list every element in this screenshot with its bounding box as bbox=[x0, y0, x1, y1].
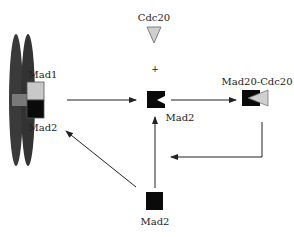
label-complex: Mad20-Cdc20 bbox=[221, 77, 292, 87]
arrow-free-mad2-to-kinetochore bbox=[66, 131, 136, 187]
label-mad1: Mad1 bbox=[29, 70, 58, 80]
arrow-complex-return bbox=[171, 122, 262, 157]
mad2-open-shape bbox=[147, 91, 165, 108]
mad2-free-square bbox=[146, 192, 163, 210]
cycle-diagram bbox=[0, 0, 294, 237]
mad2-box-chromosome bbox=[27, 100, 44, 118]
label-plus: + bbox=[151, 65, 159, 74]
mad2-cdc20-complex bbox=[242, 90, 268, 106]
mad1-box bbox=[27, 82, 44, 100]
label-mad2-free: Mad2 bbox=[141, 217, 170, 227]
cdc20-triangle bbox=[147, 27, 161, 43]
label-cdc20: Cdc20 bbox=[138, 13, 170, 23]
label-mad2-chromosome: Mad2 bbox=[29, 123, 58, 133]
label-mad2-open: Mad2 bbox=[166, 113, 195, 123]
